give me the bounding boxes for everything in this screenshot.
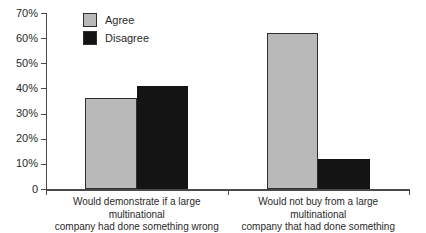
agree-label: Agree — [105, 14, 134, 26]
y-tick-label: 60% — [8, 32, 38, 45]
category-label-0: Would demonstrate if a large multination… — [48, 196, 226, 233]
y-tick-label: 20% — [8, 132, 38, 145]
y-tick — [41, 88, 46, 89]
y-tick-label: 30% — [8, 107, 38, 120]
y-tick-label: 70% — [8, 7, 38, 20]
y-tick — [41, 189, 46, 190]
agree-swatch-icon — [83, 13, 97, 27]
y-tick-label: 40% — [8, 82, 38, 95]
y-tick — [41, 139, 46, 140]
bar-disagree-1 — [318, 159, 370, 189]
disagree-swatch-icon — [83, 31, 97, 45]
disagree-label: Disagree — [105, 32, 149, 44]
bar-agree-1 — [267, 33, 319, 189]
x-axis-tick — [409, 191, 410, 195]
y-tick-label: 10% — [8, 157, 38, 170]
legend: Agree Disagree — [83, 11, 149, 47]
y-tick — [41, 164, 46, 165]
y-tick — [41, 38, 46, 39]
y-tick-label: 0 — [8, 183, 38, 196]
y-tick — [41, 13, 46, 14]
legend-item-disagree: Disagree — [83, 29, 149, 47]
bar-chart-figure: 010%20%30%40%50%60%70%Would demonstrate … — [0, 0, 426, 233]
y-tick-label: 50% — [8, 57, 38, 70]
bar-disagree-0 — [137, 86, 189, 189]
y-tick — [41, 63, 46, 64]
legend-item-agree: Agree — [83, 11, 149, 29]
category-label-1: Would not buy from a large multinational… — [230, 196, 408, 233]
y-axis — [46, 13, 47, 191]
x-axis-tick — [46, 191, 47, 195]
x-axis-tick — [228, 191, 229, 195]
bar-agree-0 — [85, 98, 137, 189]
y-tick — [41, 114, 46, 115]
